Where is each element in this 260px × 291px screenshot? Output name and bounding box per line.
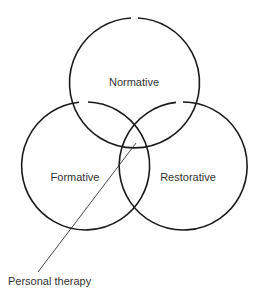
venn-diagram: Normative Formative Restorative Personal…	[0, 0, 260, 291]
personal-therapy-label: Personal therapy	[8, 275, 92, 287]
restorative-label: Restorative	[160, 171, 216, 183]
restorative-circle	[119, 102, 247, 230]
formative-circle	[22, 102, 150, 230]
normative-label: Normative	[109, 76, 159, 88]
formative-label: Formative	[51, 171, 100, 183]
personal-therapy-pointer	[38, 143, 136, 272]
